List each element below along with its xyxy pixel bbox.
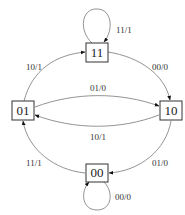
state-11: 11 bbox=[86, 43, 108, 62]
state-diagram: 11/1 10/1 00/0 01/0 10/1 11/1 01/0 00/0 … bbox=[0, 0, 185, 215]
edge-01-11 bbox=[24, 52, 85, 101]
edge-label-01-10: 01/0 bbox=[90, 83, 107, 93]
edge-11-11 bbox=[83, 9, 110, 43]
edge-01-10 bbox=[35, 96, 159, 107]
state-label: 00 bbox=[91, 165, 104, 180]
edge-label-10-00: 01/0 bbox=[152, 158, 169, 168]
state-label: 01 bbox=[17, 103, 30, 118]
edge-00-00 bbox=[84, 182, 111, 210]
state-00: 00 bbox=[86, 164, 108, 182]
edge-label-11-10: 00/0 bbox=[152, 62, 169, 72]
edge-label-00-01: 11/1 bbox=[26, 158, 42, 168]
edge-label-01-11: 10/1 bbox=[26, 62, 42, 72]
edge-label-00-00: 00/0 bbox=[115, 192, 132, 202]
state-label: 11 bbox=[91, 45, 104, 60]
state-01: 01 bbox=[12, 101, 34, 120]
edge-label-11-11: 11/1 bbox=[116, 25, 132, 35]
edge-11-10 bbox=[108, 52, 170, 100]
edge-10-01 bbox=[35, 115, 159, 126]
state-10: 10 bbox=[160, 101, 182, 120]
edge-label-10-01: 10/1 bbox=[90, 132, 106, 142]
state-label: 10 bbox=[165, 103, 178, 118]
